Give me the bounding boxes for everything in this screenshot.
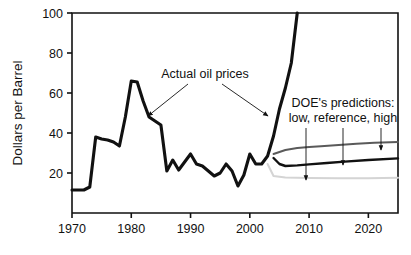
doe-predictions-arrows bbox=[306, 128, 381, 180]
y-tick-label: 40 bbox=[49, 127, 63, 141]
y-tick-label: 20 bbox=[49, 167, 63, 181]
x-axis-ticks: 197019801990200020102020 bbox=[58, 213, 382, 236]
doe-predictions-label-line1: DOE's predictions: bbox=[291, 96, 394, 110]
chart-canvas: 20406080100 197019801990200020102020 Dol… bbox=[0, 0, 411, 255]
x-tick-label: 2000 bbox=[236, 222, 264, 236]
x-tick-label: 1990 bbox=[177, 222, 205, 236]
arrow-to-2003 bbox=[222, 84, 268, 116]
y-axis-title: Dollars per Barrel bbox=[10, 60, 25, 165]
annotation-doe-predictions: DOE's predictions: low, reference, high bbox=[289, 96, 397, 180]
x-tick-label: 2010 bbox=[295, 222, 323, 236]
series-line bbox=[274, 158, 398, 166]
y-tick-label: 80 bbox=[49, 47, 63, 61]
series-line bbox=[274, 142, 398, 154]
actual-oil-prices-arrows bbox=[148, 84, 268, 116]
oil-price-forecast-figure: 20406080100 197019801990200020102020 Dol… bbox=[0, 0, 411, 255]
y-axis-ticks: 20406080100 bbox=[42, 7, 72, 181]
x-tick-label: 1980 bbox=[117, 222, 145, 236]
x-tick-label: 1970 bbox=[58, 222, 86, 236]
y-tick-label: 60 bbox=[49, 87, 63, 101]
y-tick-label: 100 bbox=[42, 7, 63, 21]
actual-oil-prices-label: Actual oil prices bbox=[161, 67, 249, 81]
series-line bbox=[72, 13, 297, 190]
annotation-actual-oil-prices: Actual oil prices bbox=[148, 67, 268, 116]
x-tick-label: 2020 bbox=[354, 222, 382, 236]
arrow-to-1983 bbox=[148, 84, 188, 116]
doe-predictions-label-line2: low, reference, high bbox=[289, 111, 397, 125]
